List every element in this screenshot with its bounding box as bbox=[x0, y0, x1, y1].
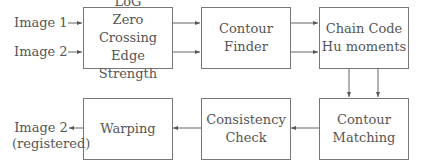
input-image2-label: Image 2 bbox=[14, 44, 68, 60]
output-line1: Image 2 bbox=[12, 120, 70, 136]
box-line: Finder bbox=[224, 38, 268, 56]
log-zero-crossing-box: LoG Zero Crossing Edge Strength bbox=[83, 7, 173, 69]
box-line: Contour bbox=[337, 111, 391, 129]
input-image1-label: Image 1 bbox=[14, 15, 68, 31]
box-line: Matching bbox=[333, 129, 396, 147]
box-line: Chain Code bbox=[326, 20, 403, 38]
box-line: Consistency bbox=[206, 111, 286, 129]
box-line: LoG bbox=[115, 0, 142, 11]
chain-code-box: Chain Code Hu moments bbox=[319, 7, 409, 69]
warping-box: Warping bbox=[83, 98, 173, 160]
output-line2: (registered) bbox=[12, 136, 70, 152]
box-line: Warping bbox=[100, 120, 155, 138]
contour-matching-box: Contour Matching bbox=[319, 98, 409, 160]
box-line: Edge Strength bbox=[84, 47, 172, 83]
consistency-check-box: Consistency Check bbox=[201, 98, 291, 160]
contour-finder-box: Contour Finder bbox=[201, 7, 291, 69]
box-line: Zero Crossing bbox=[84, 11, 172, 47]
box-line: Contour bbox=[219, 20, 273, 38]
output-label: Image 2 (registered) bbox=[12, 120, 70, 152]
box-line: Check bbox=[225, 129, 266, 147]
box-line: Hu moments bbox=[322, 38, 406, 56]
